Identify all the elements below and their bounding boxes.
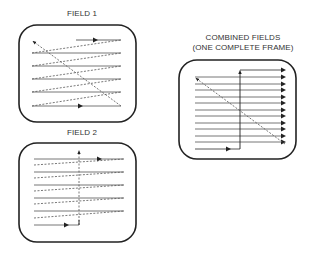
interlace-diagram (0, 0, 313, 256)
combined-frame-panel (179, 60, 296, 159)
field-1-panel (19, 25, 136, 122)
field-2-panel (19, 143, 136, 242)
